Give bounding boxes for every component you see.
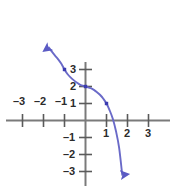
curve-point-marker — [84, 85, 87, 88]
x-tick-label-pos3: 3 — [145, 128, 151, 139]
graph-figure: –3 –2 –1 1 2 3 3 2 1 –1 –2 –3 — [0, 0, 176, 191]
coordinate-plane — [0, 0, 176, 191]
curve-point-marker — [105, 102, 108, 105]
x-tick-label-neg1: –1 — [55, 96, 67, 107]
y-tick-label-pos1: 1 — [70, 98, 76, 109]
y-tick-label-neg3: –3 — [63, 166, 75, 177]
y-tick-label-pos2: 2 — [70, 81, 76, 92]
x-tick-label-pos2: 2 — [124, 128, 130, 139]
y-tick-label-neg1: –1 — [63, 132, 75, 143]
y-tick-label-pos3: 3 — [70, 64, 76, 75]
curve-point-marker — [63, 68, 66, 71]
x-tick-label-pos1: 1 — [103, 128, 109, 139]
x-tick-label-neg2: –2 — [34, 96, 46, 107]
x-tick-label-neg3: –3 — [13, 96, 25, 107]
y-tick-label-neg2: –2 — [63, 149, 75, 160]
